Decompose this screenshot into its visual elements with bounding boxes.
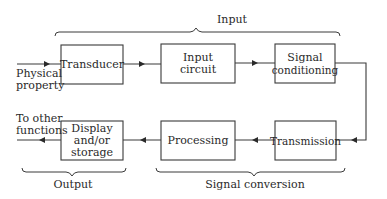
transmission-text: Transmission xyxy=(270,135,341,147)
to-other-functions-label: To other functions xyxy=(16,113,68,137)
arrow-right-icon xyxy=(139,61,145,67)
signal-conversion-brace xyxy=(156,168,345,176)
display-text-2: and/or xyxy=(74,135,110,147)
display-text-3: storage xyxy=(71,147,113,159)
display-text-1: Display xyxy=(71,123,112,135)
output-group-label: Output xyxy=(50,179,96,191)
arrow-left-icon xyxy=(351,137,357,143)
transmission-label: Transmission xyxy=(275,121,336,160)
input-circuit-text-1: Input xyxy=(183,52,213,64)
signal-conditioning-label: Signal conditioning xyxy=(275,44,335,83)
arrow-left-icon xyxy=(252,137,258,143)
arrow-left-icon xyxy=(39,137,45,143)
transducer-label: Transducer xyxy=(61,45,123,84)
input-brace xyxy=(55,28,340,36)
input-group-label: Input xyxy=(214,14,250,26)
arrow-left-icon xyxy=(140,137,146,143)
arrow-right-icon xyxy=(252,60,258,66)
physical-property-line-2: property xyxy=(16,80,64,92)
output-brace xyxy=(22,168,126,176)
processing-text: Processing xyxy=(168,135,229,147)
processing-label: Processing xyxy=(161,121,235,160)
input-circuit-text-2: circuit xyxy=(180,64,216,76)
signal-conversion-group-label: Signal conversion xyxy=(205,179,305,191)
display-storage-label: Display and/or storage xyxy=(61,121,123,160)
physical-property-label: Physical property xyxy=(16,68,64,92)
signal-conditioning-text-1: Signal xyxy=(287,52,322,64)
signal-conditioning-text-2: conditioning xyxy=(272,64,339,76)
input-circuit-label: Input circuit xyxy=(161,44,235,83)
diagram-canvas xyxy=(0,0,387,199)
transducer-text: Transducer xyxy=(60,59,124,71)
connector-signal-conditioning-transmission xyxy=(335,63,366,140)
to-other-functions-line-2: functions xyxy=(16,125,68,137)
